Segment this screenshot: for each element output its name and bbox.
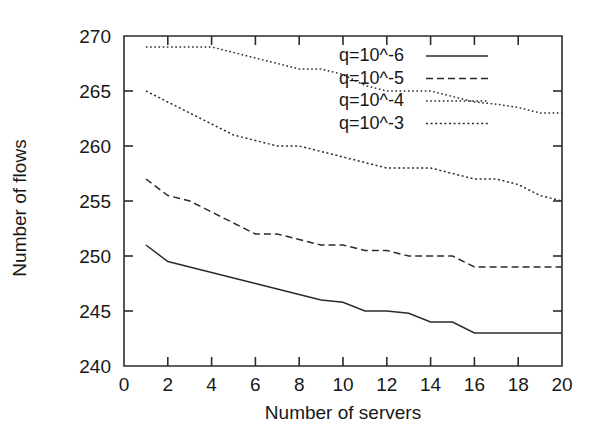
legend-label-2: q=10^-4 (339, 90, 404, 110)
x-tick-label-14: 14 (420, 374, 442, 395)
x-tick-label-16: 16 (464, 374, 485, 395)
y-axis-tick-labels: 240245250255260265270 (79, 26, 111, 377)
y-tick-label-245: 245 (79, 301, 111, 322)
x-tick-label-8: 8 (294, 374, 305, 395)
x-tick-label-4: 4 (206, 374, 217, 395)
legend-label-1: q=10^-5 (339, 68, 404, 88)
x-tick-label-18: 18 (508, 374, 529, 395)
x-axis-title-label: Number of servers (265, 402, 421, 423)
x-tick-label-10: 10 (332, 374, 353, 395)
chart-legend: q=10^-6q=10^-5q=10^-4q=10^-3 (339, 45, 488, 133)
y-tick-label-270: 270 (79, 26, 111, 47)
x-tick-label-0: 0 (119, 374, 130, 395)
series-line-q-10-5 (146, 179, 562, 267)
y-axis-title-label: Number of flows (9, 139, 30, 276)
x-tick-label-20: 20 (551, 374, 572, 395)
x-tick-label-2: 2 (163, 374, 174, 395)
legend-label-3: q=10^-3 (339, 113, 404, 133)
y-tick-label-265: 265 (79, 81, 111, 102)
x-axis-title: Number of servers (265, 402, 421, 423)
x-tick-label-6: 6 (250, 374, 261, 395)
y-tick-label-260: 260 (79, 136, 111, 157)
y-tick-label-250: 250 (79, 246, 111, 267)
x-tick-label-12: 12 (376, 374, 397, 395)
chart-figure: Number of flows Number of servers 240245… (0, 0, 598, 446)
legend-label-0: q=10^-6 (339, 45, 404, 65)
series-line-q-10-6 (146, 245, 562, 333)
y-axis-title: Number of flows (9, 139, 30, 276)
line-chart: Number of flows Number of servers 240245… (0, 0, 598, 446)
x-axis-tick-labels: 02468101214161820 (119, 374, 573, 395)
y-tick-label-255: 255 (79, 191, 111, 212)
y-tick-label-240: 240 (79, 356, 111, 377)
